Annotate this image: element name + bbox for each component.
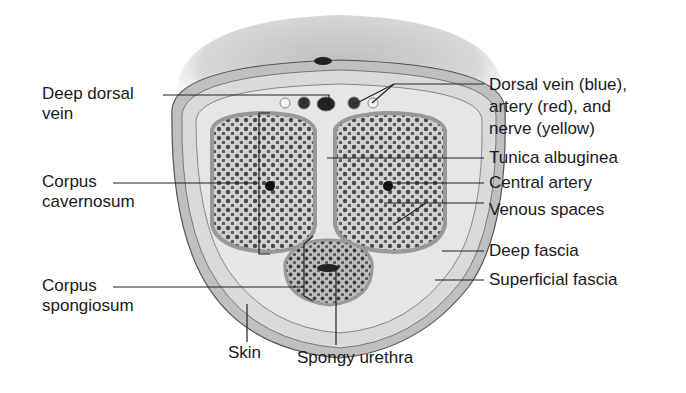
label-deep-fascia: Deep fascia xyxy=(489,241,579,261)
corpus-spongiosum-body xyxy=(285,240,372,305)
label-skin: Skin xyxy=(228,343,261,363)
superficial-dorsal-vein xyxy=(314,57,332,65)
anatomy-figure: Deep dorsalvein Corpuscavernosum Corpuss… xyxy=(0,0,686,393)
label-spongy-urethra: Spongy urethra xyxy=(297,348,413,368)
central-artery-left xyxy=(265,181,275,191)
label-corpus-spongiosum: Corpusspongiosum xyxy=(42,276,134,316)
label-corpus-cavernosum: Corpuscavernosum xyxy=(42,172,135,212)
label-venous-spaces: Venous spaces xyxy=(489,200,604,220)
label-dorsal-vessels: Dorsal vein (blue),artery (red), andnerv… xyxy=(489,74,627,140)
deep-dorsal-vein-vessel xyxy=(317,97,335,111)
label-deep-dorsal-vein: Deep dorsalvein xyxy=(42,84,134,124)
label-tunica-albuginea: Tunica albuginea xyxy=(489,148,618,168)
dorsal-artery-left xyxy=(298,97,310,109)
dorsal-nerve-left xyxy=(280,98,290,108)
label-superficial-fascia: Superficial fascia xyxy=(489,270,618,290)
label-central-artery: Central artery xyxy=(489,173,592,193)
